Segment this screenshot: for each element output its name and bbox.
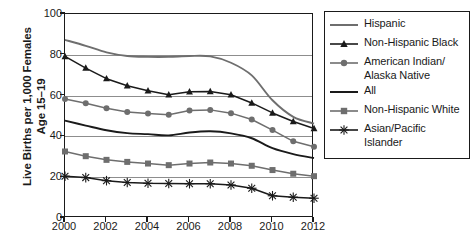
y-axis-tick-label: 40 bbox=[36, 129, 62, 141]
data-point-asterisk bbox=[288, 192, 298, 202]
legend-swatch-asterisk-icon bbox=[329, 122, 359, 137]
legend-item-non-hispanic-black[interactable]: Non-Hispanic Black bbox=[329, 36, 465, 53]
y-axis-tick-mark bbox=[60, 176, 65, 177]
data-point-square bbox=[62, 148, 68, 154]
legend-swatch-triangle-icon bbox=[329, 36, 359, 51]
data-point-asterisk bbox=[268, 191, 278, 201]
plot-area bbox=[64, 13, 313, 217]
data-point-asterisk bbox=[122, 178, 132, 188]
data-point-asterisk bbox=[247, 183, 257, 193]
legend-swatch-none-icon bbox=[329, 17, 359, 32]
legend-item-all[interactable]: All bbox=[329, 84, 465, 101]
data-point-square bbox=[83, 153, 89, 159]
legend-swatch-none-icon bbox=[329, 84, 359, 99]
legend-label: Non-Hispanic Black bbox=[364, 36, 458, 50]
data-point-asterisk bbox=[102, 176, 112, 186]
y-axis-tick-label: 100 bbox=[36, 7, 62, 19]
x-axis-tick-mark bbox=[229, 217, 230, 222]
series-non-hispanic-black bbox=[62, 53, 318, 131]
x-axis-tick-mark bbox=[146, 217, 147, 222]
y-axis-tick-label: 60 bbox=[36, 89, 62, 101]
y-axis-tick-mark bbox=[60, 53, 65, 54]
x-axis-tick-mark bbox=[63, 217, 64, 222]
x-axis-tick-mark bbox=[105, 217, 106, 222]
data-point-asterisk bbox=[143, 179, 153, 189]
data-point-circle bbox=[270, 127, 276, 133]
legend-label: Hispanic bbox=[364, 17, 405, 31]
series-asian-pacific-islander bbox=[60, 171, 319, 203]
data-point-square bbox=[228, 161, 234, 167]
data-point-asterisk bbox=[226, 180, 236, 190]
y-axis-tick-label: 20 bbox=[36, 170, 62, 182]
data-point-asterisk bbox=[164, 179, 174, 189]
chart-legend: HispanicNon-Hispanic BlackAmerican India… bbox=[324, 11, 470, 159]
x-axis-tick-mark bbox=[271, 217, 272, 222]
data-point-square bbox=[187, 161, 193, 167]
data-point-square bbox=[341, 108, 347, 114]
data-series-layer bbox=[65, 14, 314, 218]
data-point-square bbox=[270, 167, 276, 173]
data-point-circle bbox=[166, 112, 172, 118]
legend-swatch-square-icon bbox=[329, 103, 359, 118]
y-axis-tick-label: 80 bbox=[36, 48, 62, 60]
y-axis-tick-labels bbox=[30, 13, 60, 217]
series-all bbox=[65, 121, 314, 158]
data-point-asterisk bbox=[339, 125, 349, 135]
data-point-square bbox=[145, 161, 151, 167]
data-point-square bbox=[104, 157, 110, 163]
legend-label: Asian/Pacific Islander bbox=[364, 122, 465, 149]
x-axis-tick-mark bbox=[312, 217, 313, 222]
legend-item-non-hispanic-white[interactable]: Non-Hispanic White bbox=[329, 103, 465, 120]
chart-figure: Live Births per 1,000 Females Age 15–19 … bbox=[0, 0, 473, 252]
data-point-square bbox=[311, 173, 317, 179]
data-point-square bbox=[249, 163, 255, 169]
data-point-circle bbox=[207, 107, 213, 113]
y-axis-tick-mark bbox=[60, 135, 65, 136]
legend-item-asian-pacific-islander[interactable]: Asian/Pacific Islander bbox=[329, 122, 465, 149]
data-point-asterisk bbox=[205, 179, 215, 189]
x-axis-tick-mark bbox=[188, 217, 189, 222]
legend-label: Non-Hispanic White bbox=[364, 103, 459, 117]
legend-item-hispanic[interactable]: Hispanic bbox=[329, 17, 465, 34]
data-point-circle bbox=[290, 138, 296, 144]
series-line bbox=[65, 99, 314, 147]
data-point-asterisk bbox=[185, 179, 195, 189]
legend-label: All bbox=[364, 84, 376, 98]
data-point-circle bbox=[124, 109, 130, 115]
data-point-circle bbox=[83, 100, 89, 106]
series-american-indian-alaska-native bbox=[62, 96, 317, 150]
data-point-circle bbox=[104, 105, 110, 111]
data-point-circle bbox=[62, 96, 68, 102]
data-point-circle bbox=[228, 110, 234, 116]
data-point-circle bbox=[311, 144, 317, 150]
legend-label: American Indian/ Alaska Native bbox=[364, 55, 445, 82]
data-point-square bbox=[166, 162, 172, 168]
data-point-square bbox=[124, 159, 130, 165]
data-point-square bbox=[207, 160, 213, 166]
data-point-circle bbox=[341, 60, 347, 66]
data-point-square bbox=[290, 171, 296, 177]
series-non-hispanic-white bbox=[62, 148, 317, 179]
data-point-asterisk bbox=[81, 173, 91, 183]
data-point-asterisk bbox=[309, 193, 319, 203]
y-axis-tick-mark bbox=[60, 94, 65, 95]
y-axis-tick-mark bbox=[60, 12, 65, 13]
data-point-circle bbox=[145, 111, 151, 117]
data-point-circle bbox=[249, 116, 255, 122]
legend-item-american-indian-alaska-native[interactable]: American Indian/ Alaska Native bbox=[329, 55, 465, 82]
series-line bbox=[65, 121, 314, 158]
legend-swatch-circle-icon bbox=[329, 55, 359, 70]
data-point-circle bbox=[187, 107, 193, 113]
